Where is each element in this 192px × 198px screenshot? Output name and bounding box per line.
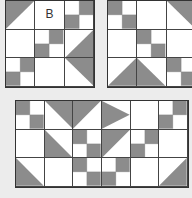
patch-shape-icon: [73, 101, 101, 129]
patch-shape-icon: [6, 58, 34, 86]
block-label: B: [35, 7, 63, 21]
quilt-block-c: [15, 100, 189, 188]
quilt-patch-fp-tl-br: [73, 130, 102, 159]
quilt-patch-blank: [45, 158, 74, 187]
quilt-patch-blank: [16, 130, 45, 159]
quilt-patch-blank: [131, 158, 160, 187]
patch-shape-icon: [73, 158, 101, 186]
quilt-patch-fp-tl-br: [167, 58, 192, 87]
patch-shape-icon: [65, 30, 93, 58]
quilt-patch-fp-tl-br: [73, 158, 102, 187]
quilt-patch-tri-bl: [137, 58, 166, 87]
quilt-patch-tri-br: [159, 158, 188, 187]
quilt-patch-fp-tl-br: [108, 1, 137, 30]
patch-shape-icon: [131, 130, 159, 158]
patch-shape-icon: [137, 58, 165, 86]
quilt-patch-fp-tr-bl: [6, 58, 35, 87]
quilt-patch-blank: [159, 130, 188, 159]
quilt-patch-tri-br: [108, 58, 137, 87]
patch-shape-icon: [45, 130, 73, 158]
quilt-patch-fp-tr-bl: [65, 1, 94, 30]
quilt-patch-fp-tl-br: [137, 30, 166, 59]
quilt-patch-fp-tr-bl: [159, 101, 188, 130]
patch-shape-icon: [73, 130, 101, 158]
patch-shape-icon: [159, 158, 187, 186]
patch-shape-icon: [167, 58, 192, 86]
patch-shape-icon: [102, 158, 130, 186]
quilt-patch-fp-tr-bl: [102, 158, 131, 187]
quilt-patch-tri-tl: [6, 1, 35, 30]
quilt-patch-fp-tl-br: [16, 101, 45, 130]
patch-shape-icon: [159, 101, 187, 129]
quilt-patch-tri-tl: [73, 101, 102, 130]
quilt-patch-fp-tr-bl: [35, 30, 64, 59]
patch-shape-icon: [16, 158, 44, 186]
patch-shape-icon: [35, 30, 63, 58]
quilt-patch-blank: [108, 30, 137, 59]
quilt-patch-tri-bl-top: [102, 101, 131, 130]
patch-shape-icon: [102, 130, 130, 158]
patch-shape-icon: [65, 58, 93, 86]
quilt-patch-blank: [6, 30, 35, 59]
quilt-patch-blank: [131, 101, 160, 130]
quilt-block-a: B: [5, 0, 95, 88]
quilt-patch-tri-tl-side: [102, 130, 131, 159]
patch-shape-icon: [16, 101, 44, 129]
patch-shape-icon: [65, 1, 93, 29]
patch-shape-icon: [108, 1, 136, 29]
quilt-patch-blank-label: B: [35, 1, 64, 30]
patch-shape-icon: [137, 30, 165, 58]
patch-shape-icon: [167, 1, 192, 29]
quilt-patch-tri-tr-side: [45, 130, 74, 159]
quilt-patch-tri-bl: [16, 158, 45, 187]
patch-shape-icon: [102, 101, 130, 129]
patch-shape-icon: [6, 1, 34, 29]
quilt-patch-tri-tr: [65, 58, 94, 87]
quilt-patch-fp-tr-bl: [131, 130, 160, 159]
quilt-patch-blank: [137, 1, 166, 30]
quilt-patch-blank: [167, 30, 192, 59]
quilt-patch-tri-tr: [167, 1, 192, 30]
patch-shape-icon: [45, 101, 73, 129]
quilt-block-b: [107, 0, 192, 88]
quilt-patch-blank: [35, 58, 64, 87]
quilt-patch-tri-br: [65, 30, 94, 59]
quilt-patch-tri-tr: [45, 101, 74, 130]
patch-shape-icon: [108, 58, 136, 86]
